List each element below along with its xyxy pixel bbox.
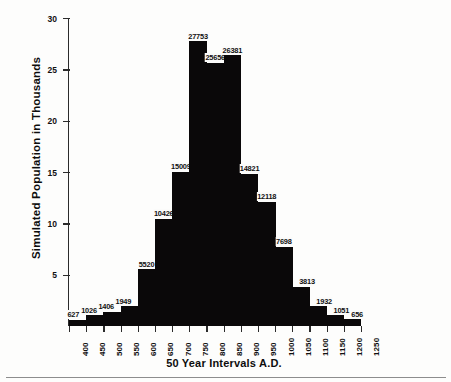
plot-area: 51015202530 6271026140619495520104261500… [68,18,378,326]
bar: 1932 [309,306,327,326]
bar: 1026 [86,315,104,326]
y-axis-tick-label: 30 [48,14,57,24]
x-axis-tick-label: 550 [132,342,141,356]
x-axis-tick-label: 1150 [338,338,347,356]
x-axis-tick-label: 400 [81,342,90,356]
bar: 7698 [275,247,293,326]
bar-value-label: 1051 [333,306,350,315]
bar: 26381 [224,55,242,326]
bar: 27753 [189,41,207,326]
x-axis-tick-label: 1250 [372,338,381,356]
y-axis-tick-label: 5 [52,270,57,280]
x-axis-tick-label: 1000 [287,338,296,356]
bar: 1406 [103,312,121,326]
histogram-figure: Simulated Population in Thousands 510152… [0,0,451,382]
x-axis-tick-label: 650 [166,342,175,356]
bar-value-label: 15009 [171,162,192,171]
bar: 1051 [327,315,345,326]
y-axis-title: Simulated Population in Thousands [30,28,42,288]
y-axis-tick-label: 10 [48,219,57,229]
bar: 1949 [121,306,139,326]
bar: 3813 [292,287,310,326]
x-axis-tick-label: 800 [218,342,227,356]
bar-value-label: 1932 [316,297,333,306]
x-axis-tick-label: 700 [184,342,193,356]
y-axis-tick-label: 20 [48,116,57,126]
x-axis-tick-label: 1050 [304,338,313,356]
bar-series: 6271026140619495520104261500927753256562… [69,18,378,326]
x-axis-tick-label: 900 [252,342,261,356]
bar-value-label: 5520 [138,260,155,269]
bar-value-label: 1949 [115,297,132,306]
x-axis-tick-label: 500 [115,342,124,356]
x-axis-tick-label: 1100 [321,338,330,356]
x-axis-tick-label: 1200 [355,338,364,356]
bar-value-label: 27753 [188,32,209,41]
x-axis-tick-label: 600 [149,342,158,356]
bar-value-label: 627 [67,310,80,319]
x-axis-tick-labels: 4004505005506006507007508008509009501000… [69,330,378,358]
bar: 15009 [172,172,190,326]
x-axis-tick-label: 950 [269,342,278,356]
x-axis-tick-label: 750 [201,342,210,356]
bar-value-label: 10426 [153,209,174,218]
x-axis-tick-label: 850 [235,342,244,356]
page-divider-rule [6,377,446,378]
bar: 10426 [155,219,173,326]
bar-value-label: 12118 [257,192,277,201]
bar: 5520 [138,269,156,326]
bar-value-label: 3813 [299,277,316,286]
bar: 25656 [206,63,224,326]
bar-value-label: 656 [351,310,364,319]
bar: 12118 [258,202,276,326]
y-axis-tick-label: 15 [48,168,57,178]
bar-value-label: 1026 [81,306,98,315]
x-axis-tick-label: 450 [98,342,107,356]
bar-value-label: 1406 [98,302,115,311]
bar-value-label: 7698 [276,237,293,246]
bar-value-label: 14821 [239,164,260,173]
x-axis-title: 50 Year Intervals A.D. [68,357,380,369]
y-axis-tick-label: 25 [48,65,57,75]
bar-value-label: 26381 [222,46,243,55]
bar: 656 [344,319,362,326]
